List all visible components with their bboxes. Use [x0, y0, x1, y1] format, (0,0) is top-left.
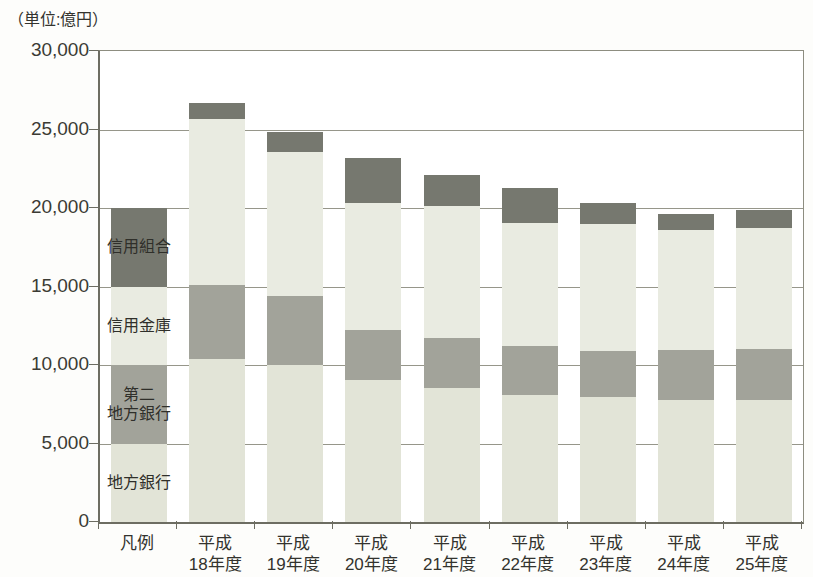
legend-label-chiho: 地方銀行: [89, 474, 189, 492]
x-tick-mark: [176, 521, 177, 529]
bar-segment-shinkumi: [502, 188, 558, 223]
y-tick-mark: [89, 521, 98, 522]
bar-segment-daini: 第二 地方銀行: [111, 365, 167, 444]
y-tick-mark: [89, 364, 98, 365]
x-tick-mark: [332, 521, 333, 529]
bar-segment-shinkin: [267, 152, 323, 296]
bar-segment-shinkumi: [345, 158, 401, 203]
bar-segment-daini: [189, 285, 245, 359]
x-tick-mark: [98, 521, 99, 529]
x-tick-mark: [645, 521, 646, 529]
bar-segment-shinkumi: [267, 132, 323, 152]
bar-segment-chiho: [658, 400, 714, 522]
bar-segment-chiho: [580, 397, 636, 522]
bar-segment-shinkumi: 信用組合: [111, 208, 167, 287]
x-tick-mark: [410, 521, 411, 529]
bar-segment-shinkin: 信用金庫: [111, 287, 167, 366]
unit-caption: （単位:億円）: [8, 6, 108, 30]
y-tick-mark: [89, 443, 98, 444]
bar-segment-shinkin: [502, 223, 558, 346]
y-tick-label: 5,000: [3, 432, 89, 454]
y-tick-label: 30,000: [3, 39, 89, 61]
bar-segment-shinkin: [736, 228, 792, 349]
bar-segment-shinkumi: [189, 103, 245, 119]
bar-segment-shinkin: [424, 206, 480, 338]
y-tick-label: 10,000: [3, 353, 89, 375]
y-tick-mark: [89, 50, 98, 51]
bar-segment-daini: [267, 296, 323, 365]
bar-segment-daini: [736, 349, 792, 400]
plot-area: 地方銀行第二 地方銀行信用金庫信用組合: [98, 50, 804, 524]
bar-segment-daini: [345, 330, 401, 379]
bar-segment-chiho: [267, 365, 323, 522]
bar-segment-daini: [658, 350, 714, 399]
bar-segment-chiho: [345, 380, 401, 522]
bar-segment-shinkin: [345, 203, 401, 331]
bar-segment-shinkin: [189, 119, 245, 285]
bar-segment-chiho: [502, 395, 558, 522]
x-tick-mark: [801, 521, 802, 529]
y-tick-label: 25,000: [3, 118, 89, 140]
bar-segment-shinkin: [658, 230, 714, 350]
y-tick-mark: [89, 129, 98, 130]
bar-segment-shinkumi: [736, 210, 792, 229]
bar-segment-daini: [580, 351, 636, 397]
y-tick-mark: [89, 286, 98, 287]
chart-figure: （単位:億円） 05,00010,00015,00020,00025,00030…: [0, 0, 813, 577]
legend-label-shinkumi: 信用組合: [89, 238, 189, 256]
bar-segment-daini: [502, 346, 558, 395]
legend-label-shinkin: 信用金庫: [89, 317, 189, 335]
bar-segment-shinkumi: [658, 214, 714, 230]
bar-segment-chiho: 地方銀行: [111, 444, 167, 523]
y-tick-mark: [89, 207, 98, 208]
x-tick-mark: [489, 521, 490, 529]
y-tick-label: 20,000: [3, 196, 89, 218]
bar-segment-chiho: [736, 400, 792, 522]
bar-segment-shinkumi: [580, 203, 636, 224]
y-tick-label: 0: [3, 510, 89, 532]
x-tick-mark: [254, 521, 255, 529]
bar-segment-shinkumi: [424, 175, 480, 206]
x-tick-label: 平成 25年度: [714, 534, 810, 575]
legend-label-daini: 第二 地方銀行: [89, 386, 189, 423]
x-tick-mark: [567, 521, 568, 529]
bar-segment-shinkin: [580, 224, 636, 351]
y-tick-label: 15,000: [3, 275, 89, 297]
x-tick-mark: [723, 521, 724, 529]
bar-segment-chiho: [189, 359, 245, 522]
bar-segment-chiho: [424, 388, 480, 522]
bar-segment-daini: [424, 338, 480, 388]
